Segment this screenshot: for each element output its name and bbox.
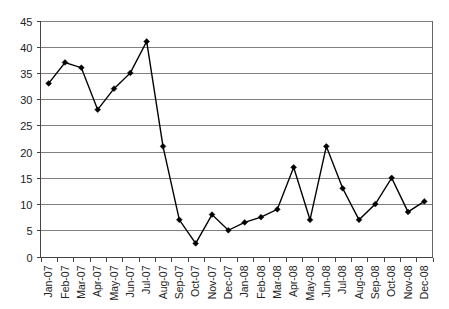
line-chart: 051015202530354045 Jan-07Feb-07Mar-07Apr… <box>0 0 449 309</box>
x-tick-label: Feb-08 <box>255 265 267 298</box>
x-tick-label: Mar-07 <box>75 265 87 298</box>
y-tick-label: 25 <box>20 120 32 132</box>
y-tick-label: 35 <box>20 68 32 80</box>
x-tick-label: Aug-08 <box>353 265 365 299</box>
x-tick-label: Nov-07 <box>206 265 218 299</box>
x-tick-label: Aug-07 <box>157 265 169 299</box>
y-tick-label: 10 <box>20 199 32 211</box>
x-tick-label: Jun-07 <box>124 265 136 297</box>
x-tick-label: Dec-07 <box>222 265 234 299</box>
y-tick-label: 0 <box>26 252 32 264</box>
x-tick-label: Apr-07 <box>91 265 103 297</box>
x-tick-label: Apr-08 <box>287 265 299 297</box>
x-tick-label: Nov-08 <box>402 265 414 299</box>
y-tick-label: 5 <box>26 225 32 237</box>
x-tick-label: Jan-08 <box>238 265 250 297</box>
x-tick-label: Sep-07 <box>173 265 185 299</box>
x-tick-label: Feb-07 <box>59 265 71 298</box>
y-tick-label: 20 <box>20 147 32 159</box>
chart-background <box>0 0 449 309</box>
x-tick-label: Oct-07 <box>189 265 201 297</box>
x-tick-label: Jul-08 <box>336 265 348 294</box>
x-tick-label: Oct-08 <box>385 265 397 297</box>
x-tick-label: Mar-08 <box>271 265 283 298</box>
x-tick-label: Dec-08 <box>418 265 430 299</box>
x-tick-label: Jan-07 <box>42 265 54 297</box>
y-tick-label: 45 <box>20 16 32 28</box>
x-tick-label: May-08 <box>304 265 316 300</box>
y-tick-label: 30 <box>20 94 32 106</box>
y-tick-label: 15 <box>20 173 32 185</box>
x-tick-label: May-07 <box>108 265 120 300</box>
x-tick-label: Sep-08 <box>369 265 381 299</box>
y-tick-label: 40 <box>20 42 32 54</box>
x-tick-label: Jun-08 <box>320 265 332 297</box>
chart-container: 051015202530354045 Jan-07Feb-07Mar-07Apr… <box>0 0 449 309</box>
x-tick-label: Jul-07 <box>140 265 152 294</box>
